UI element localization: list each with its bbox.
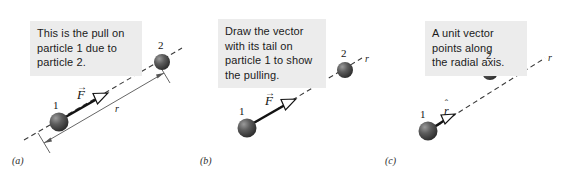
- panel-label-c: (c): [385, 155, 396, 166]
- panel-b: Draw the vector with its tail on particl…: [190, 0, 380, 184]
- particle-1-sphere: [238, 119, 257, 138]
- particle-2-label-c: 2: [486, 49, 492, 61]
- particle-1-label-a: 1: [53, 99, 59, 111]
- panel-label-b: (b): [200, 155, 212, 166]
- particle-1-label-b: 1: [239, 105, 245, 117]
- force-vector-shaft: [62, 99, 97, 119]
- distance-arrow-head-right: [156, 73, 164, 79]
- particle-2-sphere: [337, 62, 353, 78]
- callout-c: A unit vector points along the radial ax…: [425, 21, 527, 76]
- force-vector-symbol-a: F: [77, 87, 85, 102]
- unit-vector-label-c: ˆ r: [444, 101, 449, 117]
- distance-tick-left: [38, 133, 50, 153]
- force-vector-label-b: → F: [265, 90, 275, 107]
- radial-axis-label-b: r: [365, 53, 369, 64]
- panel-label-a: (a): [12, 155, 24, 166]
- radial-axis-label-c: r: [548, 52, 552, 63]
- particle-1-label-c: 1: [420, 108, 426, 120]
- distance-measure-line: [44, 73, 164, 143]
- particle-1-sphere: [50, 113, 69, 132]
- force-vector-shaft: [250, 105, 285, 125]
- force-vector-arrowhead: [93, 93, 108, 104]
- particle-2-sphere: [154, 54, 170, 70]
- unit-vector-symbol-c: r: [444, 104, 449, 118]
- panel-a: This is the pull on particle 1 due to pa…: [0, 0, 190, 184]
- particle-2-label-a: 2: [158, 39, 164, 51]
- callout-b: Draw the vector with its tail on particl…: [218, 19, 326, 88]
- callout-a: This is the pull on particle 1 due to pa…: [30, 21, 142, 76]
- force-vector-symbol-b: F: [265, 93, 273, 108]
- force-vector-label-a: → F: [77, 84, 87, 101]
- physics-figure: This is the pull on particle 1 due to pa…: [0, 0, 565, 184]
- particle-1-sphere: [419, 122, 438, 141]
- distance-arrow-head-left: [44, 138, 52, 144]
- panel-c: A unit vector points along the radial ax…: [375, 0, 565, 184]
- particle-2-label-b: 2: [341, 47, 347, 59]
- force-vector-arrowhead: [281, 99, 296, 110]
- distance-label-a: r: [115, 103, 119, 114]
